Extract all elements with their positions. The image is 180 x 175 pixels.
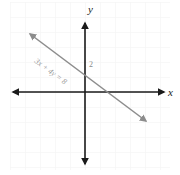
background-grid: [10, 2, 170, 170]
y-intercept-tick-label: 2: [89, 60, 93, 69]
graph-canvas: 3x + 4y = 8 y x 2: [0, 0, 180, 175]
x-axis-label: x: [167, 86, 173, 98]
coordinate-plane-graph: 3x + 4y = 8 y x 2: [0, 0, 180, 175]
y-axis-label: y: [87, 3, 93, 15]
